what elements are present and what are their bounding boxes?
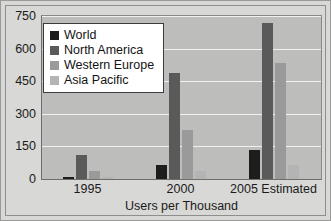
legend-swatch-icon (50, 46, 59, 55)
bar (288, 165, 299, 179)
legend-label: North America (64, 43, 143, 58)
bar (195, 171, 206, 179)
bar (76, 155, 87, 179)
x-axis-tick-label: 1995 (74, 182, 102, 196)
chart-legend: WorldNorth AmericaWestern EuropeAsia Pac… (43, 23, 164, 93)
y-axis: 0150300450600750 (1, 15, 39, 180)
y-axis-tick-label: 150 (15, 139, 36, 153)
legend-swatch-icon (50, 61, 59, 70)
bar (63, 177, 74, 179)
bar-group (249, 16, 301, 179)
y-axis-tick-label: 600 (15, 42, 36, 56)
y-axis-tick-label: 0 (29, 172, 36, 186)
legend-item: North America (50, 43, 154, 58)
bar (169, 73, 180, 179)
legend-label: Asia Pacific (64, 73, 129, 88)
bar (182, 130, 193, 179)
bar (249, 150, 260, 179)
legend-swatch-icon (50, 31, 59, 40)
legend-swatch-icon (50, 76, 59, 85)
legend-item: Asia Pacific (50, 73, 154, 88)
y-axis-tick-label: 300 (15, 107, 36, 121)
bar (89, 171, 100, 179)
x-axis: 199520002005 Estimated (41, 182, 322, 198)
legend-item: Western Europe (50, 58, 154, 73)
x-axis-title: Users per Thousand (41, 199, 322, 213)
chart-figure: 0150300450600750 WorldNorth AmericaWeste… (0, 0, 331, 221)
y-axis-tick-label: 450 (15, 74, 36, 88)
legend-label: Western Europe (64, 58, 154, 73)
bar (262, 23, 273, 179)
y-axis-tick-label: 750 (15, 9, 36, 23)
x-axis-tick-label: 2005 Estimated (230, 182, 317, 196)
legend-item: World (50, 28, 154, 43)
bar (102, 177, 113, 179)
legend-label: World (64, 28, 96, 43)
bar (275, 63, 286, 179)
x-axis-tick-label: 2000 (167, 182, 195, 196)
bar (156, 165, 167, 179)
